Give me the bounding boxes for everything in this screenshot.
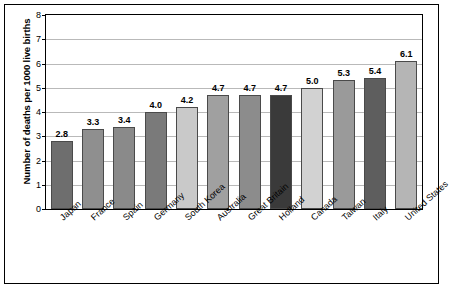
bar xyxy=(364,78,386,209)
y-tick-label: 0 xyxy=(36,204,41,214)
bar-value-label: 4.7 xyxy=(203,83,234,93)
bar-value-label: 6.1 xyxy=(391,49,422,59)
bar-slot: 4.7 xyxy=(265,15,296,209)
bar xyxy=(395,61,417,209)
y-tick-label: 4 xyxy=(36,107,41,117)
bar-value-label: 3.4 xyxy=(109,115,140,125)
bar xyxy=(113,127,135,209)
bar xyxy=(333,80,355,209)
bar-slot: 5.4 xyxy=(359,15,390,209)
y-tick-label: 5 xyxy=(36,83,41,93)
bar-slot: 5.0 xyxy=(297,15,328,209)
bar-slot: 3.3 xyxy=(77,15,108,209)
bars-group: 2.83.33.44.04.24.74.74.75.05.35.46.1 xyxy=(46,15,422,209)
bar-value-label: 2.8 xyxy=(46,129,77,139)
bar-value-label: 5.4 xyxy=(359,66,390,76)
bar xyxy=(145,112,167,209)
bar xyxy=(51,141,73,209)
bar-value-label: 5.0 xyxy=(297,76,328,86)
bar-slot: 4.7 xyxy=(234,15,265,209)
bar-value-label: 4.7 xyxy=(265,83,296,93)
bar-slot: 3.4 xyxy=(109,15,140,209)
y-tick-label: 8 xyxy=(36,10,41,20)
y-tick-label: 3 xyxy=(36,131,41,141)
bar-value-label: 4.0 xyxy=(140,100,171,110)
bar-slot: 4.2 xyxy=(171,15,202,209)
x-axis-category-labels: JapanFranceSpainGermanySouth KoreaAustra… xyxy=(45,213,423,283)
bar-slot: 6.1 xyxy=(391,15,422,209)
bar-slot: 5.3 xyxy=(328,15,359,209)
plot-area: 012345678 2.83.33.44.04.24.74.74.75.05.3… xyxy=(45,14,423,210)
y-tick-mark xyxy=(42,209,46,210)
y-axis-label: Number of deaths per 1000 live births xyxy=(21,12,32,192)
bar-slot: 4.7 xyxy=(203,15,234,209)
y-tick-label: 1 xyxy=(36,180,41,190)
bar-value-label: 4.2 xyxy=(171,95,202,105)
y-tick-label: 2 xyxy=(36,156,41,166)
bar xyxy=(82,129,104,209)
y-tick-label: 6 xyxy=(36,59,41,69)
bar-slot: 4.0 xyxy=(140,15,171,209)
y-tick-label: 7 xyxy=(36,34,41,44)
bar-slot: 2.8 xyxy=(46,15,77,209)
bar-value-label: 5.3 xyxy=(328,68,359,78)
bar-value-label: 4.7 xyxy=(234,83,265,93)
bar xyxy=(301,88,323,209)
bar-value-label: 3.3 xyxy=(77,117,108,127)
